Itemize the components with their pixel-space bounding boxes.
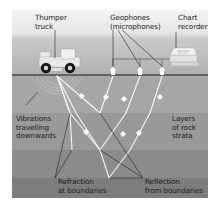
label-thumper-truck: Thumper truck [35,14,67,31]
label-refraction: Refraction at boundaries [58,178,106,195]
stratum-1 [12,75,208,113]
stratum-3 [12,150,208,178]
label-reflection: Reflection from boundaries [145,178,203,195]
label-vibrations: Vibrations travelling downwards [16,115,56,141]
label-geophones: Geophones (microphones) [110,14,161,31]
seismic-diagram: Thumper truck Geophones (microphones) Ch… [0,0,220,210]
label-chart-recorder: Chart recorder [178,14,208,31]
label-layers: Layers of rock strata [172,115,196,141]
